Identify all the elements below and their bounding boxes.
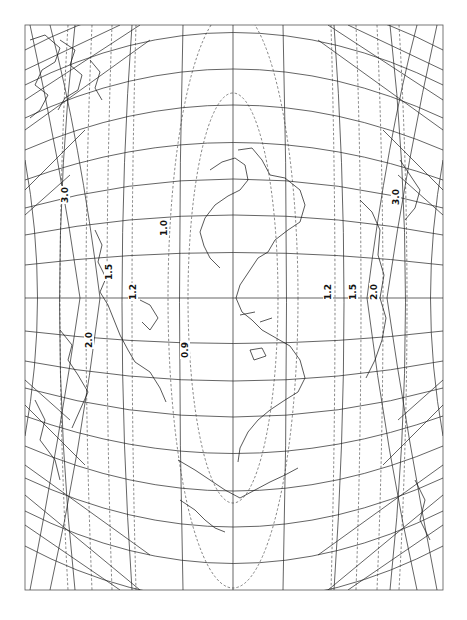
contour-labels: 3.0 2.0 1.5 1.2 1.0 0.9 1.2 1.5: [60, 186, 401, 359]
contour-label-3-0-lower: 3.0: [391, 189, 401, 205]
contour-label-1-2-upper: 1.2: [128, 284, 138, 300]
contour-label-0-9: 0.9: [180, 342, 190, 358]
map-frame: [25, 25, 443, 590]
contour-label-1-2-lower: 1.2: [323, 284, 333, 300]
contour-label-1-0: 1.0: [159, 220, 169, 236]
graticule-meridians: [25, 25, 443, 590]
projection-map: 3.0 2.0 1.5 1.2 1.0 0.9 1.2 1.5: [0, 0, 467, 620]
contour-label-3-0-upper: 3.0: [60, 187, 70, 203]
contour-label-2-0-lower: 2.0: [369, 284, 379, 300]
contour-label-1-5-upper: 1.5: [104, 264, 114, 280]
contour-label-2-0-upper: 2.0: [84, 332, 94, 348]
graticule-parallels: [25, 0, 443, 601]
contour-label-1-5-lower: 1.5: [348, 284, 358, 300]
